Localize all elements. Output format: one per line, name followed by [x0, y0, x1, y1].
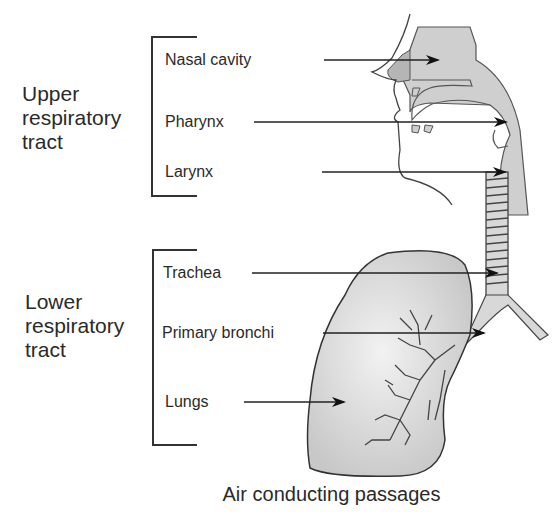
anatomy-illustration: [0, 0, 559, 512]
diagram-caption: Air conducting passages: [52, 483, 559, 506]
lower-tract-label: Lower respiratory tract: [25, 290, 124, 362]
lower-label-line-3: tract: [25, 338, 124, 362]
lung-shape: [308, 251, 473, 477]
lower-label-line-2: respiratory: [25, 314, 124, 338]
upper-label-line-1: Upper: [22, 82, 121, 106]
label-nasal-cavity: Nasal cavity: [165, 51, 251, 69]
label-larynx: Larynx: [165, 163, 213, 181]
label-pharynx: Pharynx: [165, 113, 224, 131]
upper-tract-label: Upper respiratory tract: [22, 82, 121, 154]
upper-label-line-3: tract: [22, 130, 121, 154]
label-lungs: Lungs: [165, 393, 209, 411]
upper-label-line-2: respiratory: [22, 106, 121, 130]
label-trachea: Trachea: [163, 264, 221, 282]
label-primary-bronchi: Primary bronchi: [162, 324, 274, 342]
lower-label-line-1: Lower: [25, 290, 124, 314]
respiratory-diagram: Upper respiratory tract Lower respirator…: [0, 0, 559, 512]
